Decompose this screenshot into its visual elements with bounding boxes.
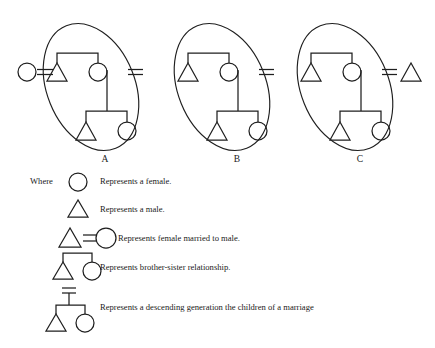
diagram-a-son-triangle <box>76 122 96 140</box>
diagram-c-label: C <box>357 154 363 164</box>
legend-item-marriage-text: Represents female married to male. <box>118 234 240 243</box>
diagram-b-marriage-equals-right <box>259 70 274 75</box>
diagram-c-sibling-bar <box>311 53 352 63</box>
diagram-a-external-female-circle <box>18 63 36 81</box>
diagram-c-marriage-equals-right <box>382 70 397 75</box>
legend-item-descending-text: Represents a descending generation the c… <box>100 303 314 312</box>
diagram-b-sibling-bar <box>188 53 229 63</box>
diagram-a-marriage-equals-right <box>128 70 143 75</box>
diagram-a-label: A <box>102 154 109 164</box>
diagram-c-son-triangle <box>330 122 350 140</box>
legend-marriage-female-circle-icon <box>96 228 116 248</box>
diagram-c-grouping-ellipse <box>279 9 410 164</box>
diagram-c-sister-circle <box>343 63 361 81</box>
diagram-b-son-triangle <box>207 122 227 140</box>
legend-descending-male-triangle-icon <box>46 314 66 331</box>
legend-sibling-male-triangle-icon <box>53 262 73 279</box>
diagram-a-sibling-bar <box>57 53 98 63</box>
diagram-c-child-bar <box>340 111 381 122</box>
legend-marriage-icon <box>59 228 116 248</box>
legend-where-label: Where <box>30 177 53 186</box>
legend-item-sibling-text: Represents brother-sister relationship. <box>100 263 230 272</box>
diagram-a: A <box>18 9 157 164</box>
diagram-b-brother-triangle <box>178 63 198 81</box>
diagram-c: C <box>279 9 421 164</box>
diagram-a-grouping-ellipse <box>25 9 156 164</box>
legend-item-female-text: Represents a female. <box>100 177 171 186</box>
diagram-b-grouping-ellipse <box>156 9 287 164</box>
diagram-b-sister-circle <box>220 63 238 81</box>
diagram-a-sister-circle <box>89 63 107 81</box>
legend-female-circle-icon <box>69 173 87 191</box>
diagram-c-external-male-triangle <box>401 63 421 81</box>
diagram-a-child-bar <box>86 111 127 122</box>
diagram-b-child-bar <box>217 111 258 122</box>
legend-male-triangle-icon <box>68 200 88 217</box>
legend-sibling-female-circle-icon <box>83 262 101 280</box>
legend-descending-generation-icon <box>46 288 94 332</box>
legend-item-male-text: Represents a male. <box>100 205 165 214</box>
diagram-a-brother-triangle <box>47 63 67 81</box>
diagram-b-label: B <box>234 154 240 164</box>
legend-descending-female-circle-icon <box>76 314 94 332</box>
kinship-figure-svg: A B <box>0 0 435 348</box>
diagram-b: B <box>156 9 287 164</box>
kinship-diagram-page: A B <box>0 0 435 348</box>
legend-marriage-male-triangle-icon <box>59 228 81 247</box>
diagram-c-brother-triangle <box>301 63 321 81</box>
legend-sibling-icon <box>53 253 101 280</box>
